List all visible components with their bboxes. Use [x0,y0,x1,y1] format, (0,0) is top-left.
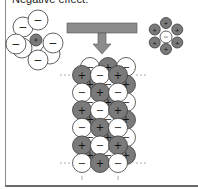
crystal-lattice: −+−+−+−+−+−+−+−+−++−+−+−+−+−+−+−+−+− [60,58,148,181]
lattice-ion: + [91,83,110,102]
lattice-ion: + [109,101,128,120]
surrounding-ion: + [172,24,183,35]
minus-sign: − [78,122,86,133]
lattice-ion: − [109,83,128,102]
central-ion: + [30,34,42,46]
plus-sign: + [114,140,122,151]
plus-sign: + [78,140,86,151]
lattice-ion: + [109,66,128,85]
plus-sign: + [175,40,180,46]
minus-sign: − [12,38,21,50]
plus-sign: + [114,70,122,81]
surrounding-ion: − [6,34,26,54]
minus-sign: − [34,54,43,66]
plus-sign: + [96,158,104,169]
plus-sign: + [96,87,104,98]
surrounding-ion: + [172,37,183,48]
lattice-ion: + [91,154,110,173]
lattice-ion: − [91,66,110,85]
lattice-ion: − [109,154,128,173]
plus-sign: + [114,105,122,116]
plus-sign: + [78,70,86,81]
transition-arrow [67,23,137,54]
surrounding-ion: + [149,37,160,48]
minus-sign: − [96,70,104,81]
surrounding-ion: − [28,10,48,30]
lattice-ion: − [73,154,92,173]
lattice-ion: − [73,83,92,102]
minus-sign: − [34,14,43,26]
lattice-ion: − [109,118,128,137]
plus-sign: + [175,27,180,33]
surrounding-ion: + [161,44,172,55]
minus-sign: − [114,158,122,169]
surrounding-ion: + [149,24,160,35]
plus-sign: + [152,40,157,46]
surrounding-ion: − [28,50,48,70]
lattice-ion: + [91,118,110,137]
minus-sign: − [114,122,122,133]
arrow-bar [67,23,137,33]
lattice-ion: − [91,101,110,120]
left-cluster: −−−−−+ [6,10,63,70]
surrounding-ion: + [161,18,172,29]
lattice-ion: + [73,136,92,155]
lattice-ion: − [91,136,110,155]
minus-sign: − [114,87,122,98]
minus-sign: − [96,140,104,151]
minus-sign: − [163,33,168,40]
surrounding-ion: − [43,33,63,53]
plus-sign: + [152,27,157,33]
plus-sign: + [164,20,169,26]
plus-sign: + [78,105,86,116]
minus-sign: − [19,21,28,33]
plus-sign: + [33,36,38,43]
minus-sign: − [49,37,58,49]
minus-sign: − [78,158,86,169]
plus-sign: + [96,122,104,133]
central-ion: − [160,31,172,43]
lattice-ion: + [73,101,92,120]
minus-sign: − [78,87,86,98]
ion-diagram: −−−−−+−++++++−+−+−+−+−+−+−+−+−++−+−+−+−+… [0,0,198,189]
lattice-ion: + [109,136,128,155]
plus-sign: + [164,46,169,52]
lattice-ion: + [73,66,92,85]
minus-sign: − [96,105,104,116]
right-cluster: −++++++ [149,18,183,55]
arrow-down-icon [93,33,111,54]
lattice-ion: − [73,118,92,137]
